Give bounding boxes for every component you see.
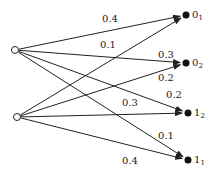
edge-weight-label: 0.1 bbox=[158, 130, 174, 141]
target-node-t1 bbox=[183, 60, 190, 67]
source-node-s0 bbox=[12, 47, 19, 54]
target-node-label: 12 bbox=[194, 107, 205, 120]
edge-weight-label: 0.3 bbox=[158, 49, 174, 60]
edge-weight-label: 0.3 bbox=[122, 97, 138, 108]
target-node-t0 bbox=[183, 12, 190, 19]
edge-weight-label: 0.2 bbox=[166, 89, 182, 100]
target-node-label: 01 bbox=[192, 9, 203, 22]
edge-weight-label: 0.4 bbox=[102, 13, 118, 24]
edge-s0-t3 bbox=[18, 52, 183, 157]
target-node-t2 bbox=[185, 110, 192, 117]
transition-diagram: 0.40.30.20.10.10.20.30.401021211 bbox=[0, 0, 214, 184]
target-node-label: 02 bbox=[192, 57, 203, 70]
edge-s1-t1 bbox=[21, 65, 180, 116]
edge-weight-label: 0.2 bbox=[158, 72, 174, 83]
edge-weight-label: 0.4 bbox=[122, 155, 138, 166]
target-node-t3 bbox=[185, 157, 192, 164]
source-node-s1 bbox=[14, 114, 21, 121]
target-node-label: 11 bbox=[194, 154, 205, 167]
labels: 0.40.30.20.10.10.20.30.401021211 bbox=[100, 9, 205, 167]
edge-s1-t2 bbox=[21, 113, 182, 117]
edge-weight-label: 0.1 bbox=[100, 39, 116, 50]
